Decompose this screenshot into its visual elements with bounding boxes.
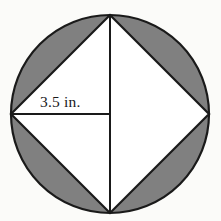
geometry-figure: 3.5 in. [0, 0, 221, 221]
radius-dimension-label: 3.5 in. [40, 94, 81, 110]
circle-with-inscribed-square-diagram [0, 0, 221, 221]
